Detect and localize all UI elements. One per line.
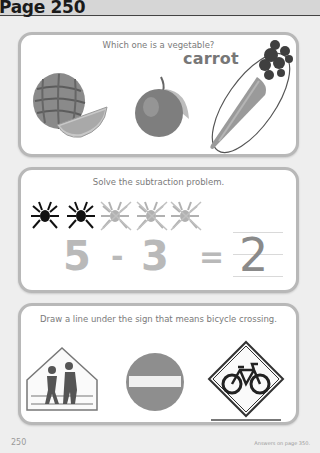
spider-icon: [31, 202, 59, 228]
activity-card-subtraction: Solve the subtraction problem. 5 - 3 =: [18, 167, 299, 293]
school-crossing-sign[interactable]: [25, 346, 99, 412]
answers-note: Answers on page 350.: [254, 440, 310, 446]
equation-subtrahend: 3: [141, 236, 169, 276]
page-title: Page 250: [0, 0, 85, 17]
carrot-image[interactable]: [199, 37, 301, 155]
bicycle-crossing-sign[interactable]: [207, 340, 285, 418]
page-header: Page 250: [0, 0, 320, 16]
watermelon-image[interactable]: [29, 69, 111, 141]
answer-underline: [211, 419, 281, 421]
spiders-row: [29, 198, 209, 232]
do-not-enter-sign[interactable]: [123, 350, 187, 414]
spider-crossed-icon: [171, 202, 201, 230]
equation-minuend: 5: [63, 236, 91, 276]
plum-image[interactable]: [131, 73, 193, 139]
spider-crossed-icon: [137, 202, 167, 230]
equation-operator: -: [111, 242, 123, 272]
activity-card-signs: Draw a line under the sign that means bi…: [18, 303, 299, 425]
answer-field[interactable]: 2: [239, 232, 268, 278]
activity-card-vegetable: Which one is a vegetable? carrot: [18, 32, 299, 157]
activity-prompt: Solve the subtraction problem.: [21, 177, 296, 187]
activity-prompt: Draw a line under the sign that means bi…: [21, 314, 296, 324]
spider-crossed-icon: [101, 202, 131, 230]
equation-equals: =: [199, 242, 224, 272]
spider-icon: [67, 202, 95, 228]
page-number: 250: [11, 438, 26, 447]
